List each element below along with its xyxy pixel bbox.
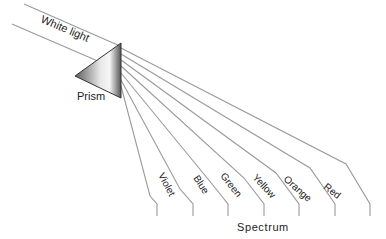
spectrum-label: Spectrum (237, 221, 289, 233)
color-label-blue: Blue (191, 173, 211, 196)
color-label-violet: Violet (156, 171, 177, 198)
color-label-red: Red (322, 181, 343, 201)
prism-label: Prism (77, 90, 105, 102)
dispersion-diagram: White light Prism Violet Blue Green Yell… (0, 0, 386, 239)
color-label-yellow: Yellow (251, 172, 279, 201)
color-label-orange: Orange (282, 173, 314, 204)
